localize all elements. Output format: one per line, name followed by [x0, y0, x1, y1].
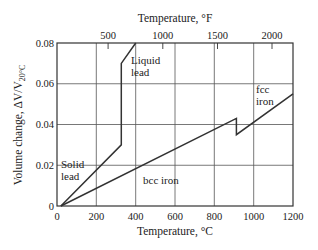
svg-text:1000: 1000: [152, 30, 173, 41]
svg-text:0.02: 0.02: [36, 160, 54, 171]
svg-text:400: 400: [128, 211, 144, 222]
svg-text:600: 600: [167, 211, 183, 222]
svg-text:0.06: 0.06: [36, 78, 54, 89]
svg-text:lead: lead: [131, 66, 150, 78]
annotation-solid-lead: Solid lead: [61, 158, 85, 182]
svg-text:500: 500: [100, 30, 116, 41]
y-axis-title: Volume change, ΔV/V20°C: [12, 65, 27, 186]
svg-text:200: 200: [88, 211, 104, 222]
y-axis-tick-labels: 0 0.02 0.04 0.06 0.08: [36, 38, 55, 212]
x2-axis-tick-labels: 500 1000 1500 2000: [100, 30, 282, 41]
svg-text:1200: 1200: [283, 211, 304, 222]
svg-text:0: 0: [54, 211, 59, 222]
annotation-liquid-lead: Liquid lead: [131, 54, 161, 78]
svg-text:2000: 2000: [262, 30, 283, 41]
svg-text:iron: iron: [256, 95, 274, 107]
chart-canvas: 0 200 400 600 800 1000 1200 500 1000 150…: [0, 0, 318, 250]
iron-series: [61, 94, 293, 206]
svg-text:0: 0: [49, 201, 54, 212]
x-axis-title: Temperature, °C: [137, 225, 213, 238]
svg-text:0.04: 0.04: [36, 119, 55, 130]
svg-text:Liquid: Liquid: [131, 54, 161, 66]
x-axis-tick-labels: 0 200 400 600 800 1000 1200: [54, 211, 303, 222]
svg-text:1500: 1500: [207, 30, 228, 41]
svg-text:Volume change, ΔV/V20°C: Volume change, ΔV/V20°C: [12, 65, 27, 186]
svg-text:Solid: Solid: [61, 158, 85, 170]
svg-text:lead: lead: [61, 170, 80, 182]
annotation-bcc-iron: bcc iron: [143, 174, 179, 186]
svg-text:1000: 1000: [243, 211, 264, 222]
annotation-fcc-iron: fcc iron: [256, 83, 274, 107]
svg-text:800: 800: [206, 211, 222, 222]
svg-text:fcc: fcc: [256, 83, 270, 95]
svg-text:0.08: 0.08: [36, 38, 54, 49]
x2-axis-title: Temperature, °F: [138, 12, 213, 25]
